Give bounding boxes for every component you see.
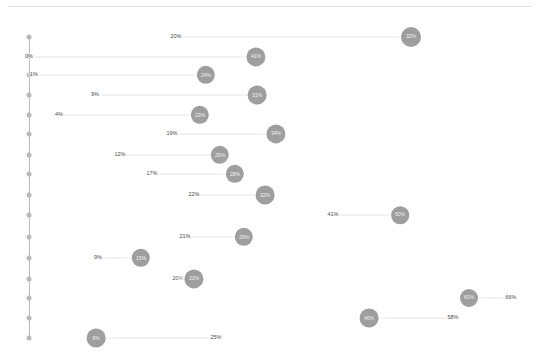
y-axis-dot: [27, 296, 32, 301]
value-node[interactable]: 50%: [391, 206, 409, 224]
connector-line: [176, 37, 411, 38]
value-node[interactable]: 32%: [256, 186, 275, 205]
value-node[interactable]: 22%: [184, 269, 203, 288]
connector-line: [59, 115, 200, 116]
connector-line: [152, 174, 235, 175]
value-node[interactable]: 29%: [235, 228, 253, 246]
value-node[interactable]: 46%: [360, 309, 379, 328]
connector-line: [172, 134, 276, 135]
value-label: 19%: [163, 128, 182, 139]
connector-line: [34, 75, 206, 76]
value-label: 4%: [51, 109, 67, 120]
value-label: 12%: [111, 149, 130, 160]
value-node[interactable]: 32%: [401, 27, 421, 47]
value-node[interactable]: 28%: [226, 165, 244, 183]
y-axis-dot: [27, 132, 32, 137]
connector-line: [29, 57, 256, 58]
y-axis-dot: [27, 336, 32, 341]
y-axis-dot: [27, 235, 32, 240]
value-node[interactable]: 15%: [132, 249, 150, 267]
value-label: 22%: [185, 189, 204, 200]
value-label: 17%: [143, 168, 162, 179]
value-node[interactable]: 9%: [87, 329, 106, 348]
connector-line: [96, 338, 216, 339]
y-axis-dot: [27, 256, 32, 261]
value-label: 66%: [502, 292, 521, 303]
y-axis-dot: [27, 193, 32, 198]
value-node[interactable]: 31%: [248, 86, 267, 105]
y-axis-dot: [27, 93, 32, 98]
value-label: 41%: [324, 209, 343, 220]
value-node[interactable]: 26%: [211, 146, 229, 164]
chart-canvas: 20%32%0%41%1%24%9%31%4%23%19%34%12%26%17…: [0, 0, 540, 359]
y-axis-dot: [27, 172, 32, 177]
connector-line: [120, 155, 220, 156]
value-label: 25%: [207, 332, 226, 343]
connector-line: [369, 318, 453, 319]
y-axis-spine: [29, 37, 30, 338]
y-axis-dot: [27, 35, 32, 40]
value-label: 58%: [444, 312, 463, 323]
value-node[interactable]: 24%: [197, 66, 215, 84]
value-label: 9%: [87, 89, 103, 100]
connector-line: [333, 215, 400, 216]
plot-area: 20%32%0%41%1%24%9%31%4%23%19%34%12%26%17…: [0, 0, 540, 359]
value-label: 9%: [90, 252, 106, 263]
value-node[interactable]: 60%: [460, 289, 478, 307]
value-node[interactable]: 41%: [246, 47, 265, 66]
value-label: 1%: [26, 69, 42, 80]
y-axis-dot: [27, 113, 32, 118]
value-label: 20%: [167, 31, 186, 42]
value-node[interactable]: 34%: [266, 124, 285, 143]
value-label: 21%: [176, 231, 195, 242]
value-label: 0%: [21, 51, 37, 62]
connector-line: [194, 195, 265, 196]
y-axis-dot: [27, 153, 32, 158]
value-node[interactable]: 23%: [191, 106, 209, 124]
y-axis-dot: [27, 213, 32, 218]
y-axis-dot: [27, 316, 32, 321]
y-axis-dot: [27, 277, 32, 282]
connector-line: [95, 95, 257, 96]
